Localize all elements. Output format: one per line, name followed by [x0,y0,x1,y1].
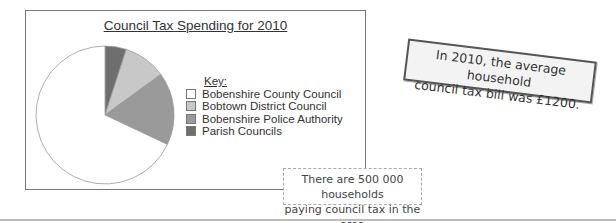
callout-line: There are 500 000 households [284,172,421,202]
legend-swatch [186,126,196,136]
divider [0,219,616,221]
pie-chart-panel: Council Tax Spending for 2010 Key: Boben… [25,10,366,190]
legend-swatch [186,101,196,111]
legend-item-county: Bobenshire County Council [186,88,343,101]
legend-item-district: Bobtown District Council [186,100,343,113]
chart-title: Council Tax Spending for 2010 [26,18,365,33]
legend-swatch [186,89,196,99]
legend-title: Key: [204,75,343,88]
legend-item-parish: Parish Councils [186,125,343,138]
legend-swatch [186,114,196,124]
average-bill-note: In 2010, the average household council t… [403,39,597,104]
legend-item-police: Bobenshire Police Authority [186,113,343,126]
chart-legend: Key: Bobenshire County Council Bobtown D… [186,75,343,138]
pie-chart [34,44,176,186]
households-callout: There are 500 000 households paying coun… [283,168,422,205]
